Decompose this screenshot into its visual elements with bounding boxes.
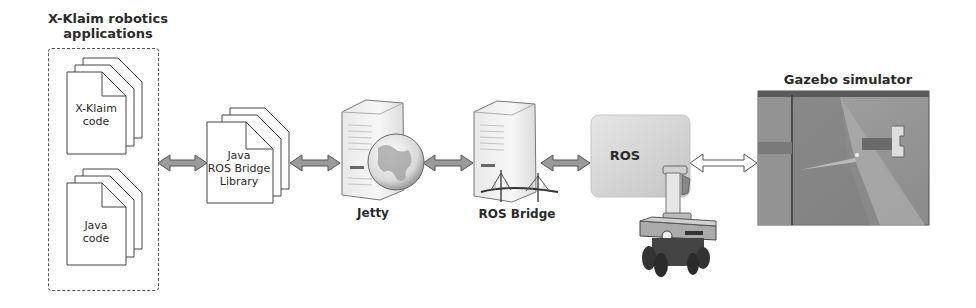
apps-group-box	[48, 48, 159, 291]
java-code-label: Java code	[67, 219, 125, 245]
connection-arrow-ros-gazebo	[690, 154, 757, 172]
gazebo-title: Gazebo simulator	[778, 72, 918, 87]
xklaim-code-label: X-Klaim code	[67, 102, 125, 128]
connection-arrow-apps-library	[158, 155, 207, 171]
gazebo-screenshot	[758, 91, 929, 225]
library-label-line3: Library	[203, 175, 275, 188]
ros-label: ROS	[600, 148, 650, 163]
connection-arrow-jetty-rosbridge	[423, 155, 473, 171]
ros-bridge-label: ROS Bridge	[468, 207, 566, 221]
library-label-line1: Java	[203, 149, 275, 162]
java-code-label-line1: Java	[67, 219, 125, 232]
ros-bridge-server-icon	[474, 101, 558, 202]
connection-arrow-library-jetty	[290, 155, 340, 171]
library-label-line2: ROS Bridge	[203, 162, 275, 175]
apps-group-title-line2: applications	[40, 26, 176, 41]
library-label: Java ROS Bridge Library	[203, 149, 275, 188]
java-code-label-line2: code	[67, 232, 125, 245]
jetty-label: Jetty	[345, 206, 401, 220]
jetty-server-icon	[342, 100, 424, 200]
xklaim-code-label-line2: code	[67, 115, 125, 128]
apps-group-title-line1: X-Klaim robotics	[40, 11, 176, 26]
connection-arrow-rosbridge-ros	[541, 155, 590, 171]
xklaim-code-label-line1: X-Klaim	[67, 102, 125, 115]
apps-group-title: X-Klaim robotics applications	[40, 11, 176, 41]
